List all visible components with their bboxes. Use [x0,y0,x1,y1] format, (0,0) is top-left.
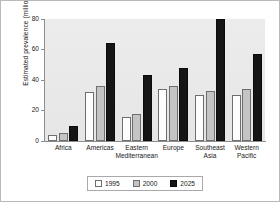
bar-2025 [69,126,78,141]
bar-1995 [232,95,241,141]
bar-2000 [242,89,251,141]
chart-legend: 199520002025 [87,176,203,191]
y-axis-tick-label: 40 [32,76,39,83]
legend-label: 2025 [180,180,195,187]
legend-item: 2000 [133,180,158,187]
y-axis-tick-mark [41,19,45,20]
plot-area: 020406080 [45,19,265,141]
bar-2025 [179,68,188,141]
bar-group [195,19,225,141]
bar-2025 [143,75,152,141]
legend-label: 1995 [105,180,120,187]
bar-2025 [253,54,262,141]
y-axis-tick-mark [41,110,45,111]
y-axis-tick-mark [41,49,45,50]
x-axis-category-label: Europe [163,144,184,152]
x-axis-category-label: Africa [55,144,72,152]
bar-1995 [48,135,57,141]
y-axis-title: Estimated prevalence (millions) [22,0,29,109]
x-axis-category-label: Southeast Asia [195,144,225,160]
y-axis-tick-label: 0 [35,137,39,144]
y-axis-tick-mark [41,141,45,142]
y-axis-tick-label: 80 [32,15,39,22]
legend-swatch-2025 [170,180,177,187]
x-axis-category-label: Eastern Mediterranean [115,144,158,160]
x-axis-category-label: Americas [86,144,113,152]
legend-swatch-2000 [133,180,140,187]
bar-2025 [216,19,225,141]
legend-item: 2025 [170,180,195,187]
legend-item: 1995 [95,180,120,187]
y-axis-tick-label: 60 [32,45,39,52]
bar-2000 [96,86,105,141]
legend-label: 2000 [143,180,158,187]
legend-swatch-1995 [95,180,102,187]
bar-2000 [132,114,141,141]
y-axis-tick-label: 20 [32,106,39,113]
x-axis-category-label: Western Pacific [234,144,258,160]
x-axis-line [44,141,266,142]
bar-1995 [158,89,167,141]
bar-group [122,19,152,141]
bar-1995 [195,95,204,141]
bar-group [158,19,188,141]
bar-2025 [106,43,115,141]
bar-chart-figure: Estimated prevalence (millions) 02040608… [0,0,280,202]
bar-1995 [85,92,94,141]
bar-1995 [122,117,131,141]
bar-2000 [169,86,178,141]
bar-2000 [59,133,68,141]
y-axis-tick-mark [41,80,45,81]
bar-group [48,19,78,141]
bar-group [232,19,262,141]
bar-group [85,19,115,141]
bar-2000 [206,91,215,141]
